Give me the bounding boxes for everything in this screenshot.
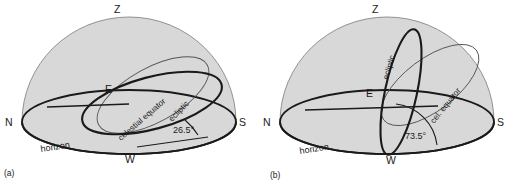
panel-b-diagram: Z N E S W horizon ecliptic cel. equator … [258, 0, 516, 187]
west-label-a: W [125, 153, 135, 165]
zenith-label-a: Z [114, 3, 121, 15]
north-label-a: N [5, 116, 13, 128]
panel-a-diagram: Z N E S W horizon celestial equator ecli… [0, 0, 258, 187]
panel-b: Z N E S W horizon ecliptic cel. equator … [258, 0, 516, 187]
north-label-b: N [263, 116, 271, 128]
zenith-label-b: Z [372, 3, 379, 15]
east-label-b: E [366, 87, 373, 99]
caption-a: (a) [4, 168, 15, 178]
angle-label-b: 73.5° [405, 131, 427, 141]
horizon-label-b: horizon [299, 141, 330, 155]
panel-a: Z N E S W horizon celestial equator ecli… [0, 0, 258, 187]
east-label-a: E [105, 83, 112, 95]
caption-b: (b) [270, 170, 281, 180]
west-label-b: W [386, 154, 396, 166]
astronomy-figure: Z N E S W horizon celestial equator ecli… [0, 0, 516, 187]
angle-label-a: 26.5° [173, 125, 195, 135]
south-label-a: S [239, 116, 246, 128]
south-label-b: S [497, 116, 504, 128]
